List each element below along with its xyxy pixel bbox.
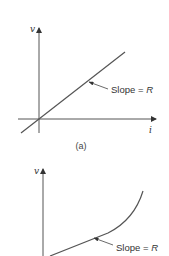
slope-pointer-a [89, 82, 108, 89]
figure-b: v Slope = R [34, 166, 158, 256]
slope-pointer-b [94, 238, 113, 245]
y-axis-label-a: v [30, 24, 35, 34]
slope-label-a: Slope = R [111, 84, 153, 95]
linear-line-a [21, 52, 125, 133]
x-axis-label-a: i [149, 125, 152, 135]
y-axis-label-b: v [34, 166, 39, 176]
slope-label-b: Slope = R [116, 242, 158, 253]
figure: v i Slope = R (a) v Slope = R [0, 0, 169, 256]
figure-a: v i Slope = R (a) [18, 24, 156, 151]
caption-a: (a) [76, 141, 87, 151]
